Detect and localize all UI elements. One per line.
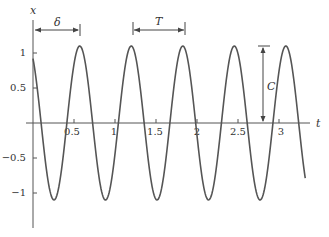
xtick-label: 2.5	[230, 126, 246, 137]
period-label: T	[155, 15, 164, 28]
chart: x t 1 0.5 −0.5 −1 0.5 1 1.5 2 2.5 3 δ	[0, 0, 329, 237]
y-axis-label: x	[30, 4, 37, 17]
xtick-label: 3	[278, 126, 284, 137]
ytick-label: 0.5	[10, 82, 26, 93]
x-axis-label: t	[316, 117, 321, 130]
xtick-label: 1.5	[147, 126, 163, 137]
delta-annotation: δ	[35, 16, 80, 36]
ytick-label: −1	[11, 187, 26, 198]
delta-label: δ	[54, 16, 61, 29]
x-ticks: 0.5 1 1.5 2 2.5 3	[64, 119, 284, 137]
ytick-label: −0.5	[2, 152, 26, 163]
amplitude-label: C	[267, 80, 276, 93]
period-annotation: T	[133, 15, 185, 35]
xtick-label: 1	[111, 126, 117, 137]
amplitude-annotation: C	[258, 46, 276, 122]
ytick-label: 1	[20, 47, 26, 58]
